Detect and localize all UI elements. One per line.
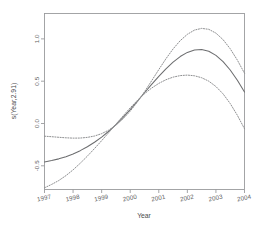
y-tick-label: 0.0 [33, 119, 40, 128]
y-axis-title: s(Year,2.91) [10, 83, 18, 119]
y-tick-label: 1.0 [33, 34, 40, 43]
y-tick-label: 0.5 [33, 76, 40, 85]
chart-canvas: 1.00.50.0-0.5 19971998199920002001200220… [0, 0, 261, 231]
x-axis-title: Year [137, 212, 151, 219]
y-tick-label: -0.5 [33, 160, 40, 172]
gam-smooth-plot: 1.00.50.0-0.5 19971998199920002001200220… [0, 0, 261, 231]
